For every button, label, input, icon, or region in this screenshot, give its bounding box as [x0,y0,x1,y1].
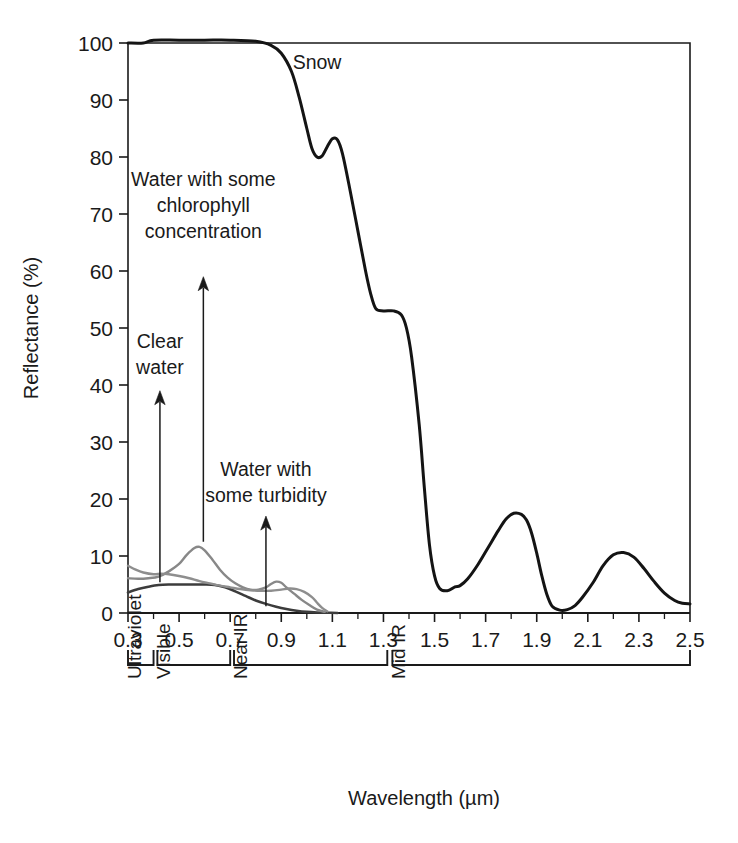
annotation-label-clear-water: water [135,356,184,378]
x-tick-label: 2.3 [624,628,653,651]
x-tick-label: 1.9 [522,628,551,651]
x-tick-label: 2.1 [573,628,602,651]
annotation-label-snow: Snow [293,51,343,73]
x-tick-label: 1.1 [318,628,347,651]
y-tick-label: 30 [90,431,113,454]
y-tick-label: 70 [90,203,113,226]
annotation-label-chlorophyll: chlorophyll [157,194,250,216]
band-label-visible: Visible [153,623,174,679]
y-tick-label: 60 [90,260,113,283]
band-label-mid-ir: Mid IR [388,624,409,679]
x-axis-title: Wavelength (µm) [348,787,500,809]
y-tick-label: 50 [90,317,113,340]
annotation-label-turbidity: Water with [220,458,311,480]
y-tick-label: 10 [90,545,113,568]
y-tick-label: 80 [90,146,113,169]
annotation-label-turbidity: some turbidity [205,484,327,506]
x-tick-label: 1.7 [471,628,500,651]
annotation-label-chlorophyll: Water with some [131,168,275,190]
y-tick-label: 90 [90,89,113,112]
x-tick-label: 1.5 [420,628,449,651]
chart-figure: 0102030405060708090100 0.30.50.70.91.11.… [0,0,738,843]
y-tick-label: 20 [90,488,113,511]
x-tick-label: 2.5 [675,628,704,651]
band-label-near-ir: Near IR [230,614,251,679]
chart-background [0,0,738,843]
y-tick-label: 40 [90,374,113,397]
y-axis-title: Reflectance (%) [20,257,42,399]
y-tick-label: 0 [101,602,113,625]
annotation-snow: Snow [293,51,343,73]
annotation-label-clear-water: Clear [137,330,184,352]
x-tick-label: 0.9 [267,628,296,651]
band-label-ultraviolet: Ultraviolet [124,594,145,679]
spectral-reflectance-chart: 0102030405060708090100 0.30.50.70.91.11.… [0,0,738,843]
y-tick-label: 100 [78,32,113,55]
annotation-label-chlorophyll: concentration [145,220,262,242]
